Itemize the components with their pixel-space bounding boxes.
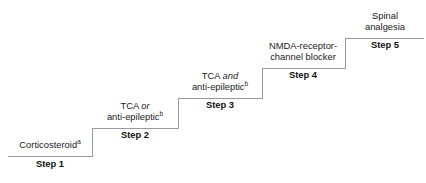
step-2-drug-line-2: anti-epilepticb [90, 111, 180, 122]
step-5: Spinal analgesia Step 5 [344, 10, 426, 50]
step-2-footnote-marker: b [160, 110, 164, 117]
step-2-conjunction: or [141, 100, 149, 111]
step-3-footnote-marker: b [245, 80, 249, 87]
step-2-drug: TCA or anti-epilepticb [90, 100, 180, 125]
step-2-drug-line-1: TCA or [90, 100, 180, 111]
step-4-drug-line-2: channel blocker [258, 51, 348, 62]
step-2-drug-line-1-text: TCA [120, 100, 141, 111]
step-3-drug-line-2: anti-epilepticb [176, 81, 264, 92]
step-3-drug-line-2-text: anti-epileptic [192, 81, 245, 92]
step-1-drug: Corticosteroida [6, 139, 94, 154]
step-4-drug: NMDA-receptor- channel blocker [258, 40, 348, 65]
step-3-label: Step 3 [176, 95, 264, 110]
step-5-drug-line-1: Spinal [344, 10, 426, 21]
step-5-drug-line-2: analgesia [344, 21, 426, 32]
step-2-drug-line-2-text: anti-epileptic [107, 111, 160, 122]
step-2-label: Step 2 [90, 125, 180, 140]
diagram-canvas: Corticosteroida Step 1 TCA or anti-epile… [0, 0, 426, 183]
step-3: TCA and anti-epilepticb Step 3 [176, 70, 264, 110]
step-3-drug: TCA and anti-epilepticb [176, 70, 264, 95]
step-1-label: Step 1 [6, 154, 94, 169]
step-1-drug-line-1-text: Corticosteroid [19, 139, 77, 150]
step-5-drug: Spinal analgesia [344, 10, 426, 35]
step-5-label: Step 5 [344, 35, 426, 50]
step-1: Corticosteroida Step 1 [6, 139, 94, 169]
step-1-footnote-marker: a [77, 138, 81, 145]
step-3-drug-line-1-text: TCA [202, 70, 223, 81]
step-4: NMDA-receptor- channel blocker Step 4 [258, 40, 348, 80]
step-2: TCA or anti-epilepticb Step 2 [90, 100, 180, 140]
step-4-label: Step 4 [258, 65, 348, 80]
step-4-drug-line-1: NMDA-receptor- [258, 40, 348, 51]
step-3-drug-line-1: TCA and [176, 70, 264, 81]
step-3-conjunction: and [223, 70, 239, 81]
